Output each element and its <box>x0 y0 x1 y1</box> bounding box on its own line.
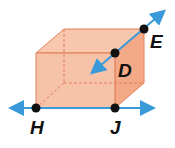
label-h: H <box>30 118 44 137</box>
point-j <box>111 104 120 113</box>
prism-diagram <box>0 0 175 148</box>
label-e: E <box>150 32 163 51</box>
prism-front-face <box>36 53 115 108</box>
label-j: J <box>110 118 121 137</box>
point-d <box>111 49 120 58</box>
point-e <box>140 25 149 34</box>
label-d: D <box>118 61 132 80</box>
point-h <box>32 104 41 113</box>
